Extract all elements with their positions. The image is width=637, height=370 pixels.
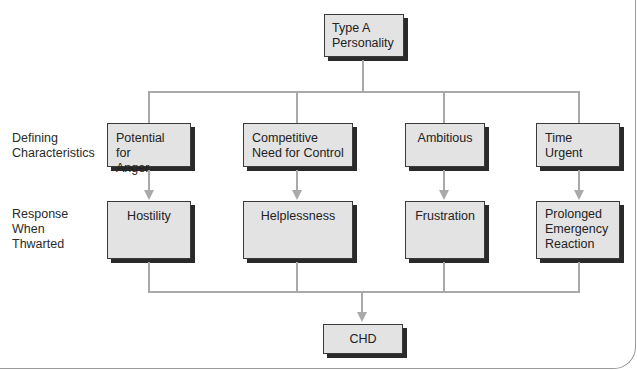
connector-arrow-3 xyxy=(443,170,445,192)
connector-up-1 xyxy=(148,262,150,292)
node-label: CHD xyxy=(324,332,402,347)
node-frustration: Frustration xyxy=(405,201,485,259)
arrow-down-icon xyxy=(144,190,154,200)
connector-top-bus xyxy=(148,91,580,93)
node-label: Frustration xyxy=(414,209,476,224)
node-time-urgent: Time Urgent xyxy=(536,123,620,167)
node-competitive-need-for-control: Competitive Need for Control xyxy=(243,123,353,167)
node-label: Type A Personality xyxy=(332,21,396,51)
node-label: Time Urgent xyxy=(545,131,611,161)
row-label-text: Defining Characteristics xyxy=(12,131,95,161)
arrow-down-icon xyxy=(357,312,367,322)
arrow-down-icon xyxy=(439,190,449,200)
connector-root-down xyxy=(362,60,364,92)
node-chd: CHD xyxy=(323,324,403,354)
arrow-down-icon xyxy=(574,190,584,200)
connector-drop-4 xyxy=(578,91,580,124)
node-hostility: Hostility xyxy=(107,201,191,259)
figure-frame xyxy=(0,0,636,369)
connector-arrow-2 xyxy=(296,170,298,192)
connector-up-2 xyxy=(296,262,298,292)
connector-arrow-1 xyxy=(148,170,150,192)
node-type-a-personality: Type A Personality xyxy=(324,14,404,57)
connector-drop-2 xyxy=(296,91,298,124)
node-label: Helplessness xyxy=(252,209,344,224)
connector-bottom-bus xyxy=(148,291,580,293)
row-label-text: Response When Thwarted xyxy=(12,207,68,252)
node-label: Hostility xyxy=(116,209,182,224)
connector-drop-3 xyxy=(443,91,445,124)
node-label: Prolonged Emergency Reaction xyxy=(545,207,611,252)
connector-drop-1 xyxy=(148,91,150,124)
connector-up-3 xyxy=(443,262,445,292)
node-potential-for-anger: Potential for Anger xyxy=(107,123,191,167)
row-label-defining-characteristics: Defining Characteristics xyxy=(12,131,95,161)
row-label-response-when-thwarted: Response When Thwarted xyxy=(12,207,68,252)
node-prolonged-emergency-reaction: Prolonged Emergency Reaction xyxy=(536,201,620,259)
connector-up-4 xyxy=(578,262,580,292)
node-ambitious: Ambitious xyxy=(405,123,485,167)
connector-arrow-4 xyxy=(578,170,580,192)
node-label: Ambitious xyxy=(414,131,476,146)
arrow-down-icon xyxy=(292,190,302,200)
node-helplessness: Helplessness xyxy=(243,201,353,259)
node-label: Competitive Need for Control xyxy=(252,131,344,161)
